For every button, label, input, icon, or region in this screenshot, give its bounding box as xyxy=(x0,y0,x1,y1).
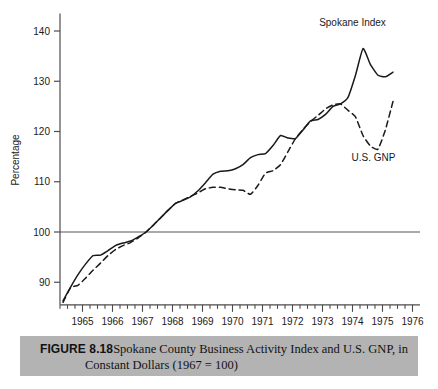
y-axis: 90100110120130140 xyxy=(33,13,60,304)
x-tick-label: 1972 xyxy=(281,316,304,327)
x-axis: 1965196619671968196919701971197219731974… xyxy=(60,305,424,327)
x-tick-label: 1976 xyxy=(401,316,424,327)
caption-line-2: Constant Dollars (1967 = 100) xyxy=(20,357,418,373)
series-line-1 xyxy=(63,49,393,301)
y-tick-label: 140 xyxy=(33,26,50,37)
y-axis-title: Percentage xyxy=(10,134,21,186)
x-tick-label: 1968 xyxy=(161,316,184,327)
figure-caption-bar: FIGURE 8.18Spokane County Business Activ… xyxy=(20,336,418,376)
x-tick-label: 1973 xyxy=(311,316,334,327)
y-tick-label: 90 xyxy=(39,277,51,288)
x-tick-label: 1969 xyxy=(191,316,214,327)
caption-line-1: FIGURE 8.18Spokane County Business Activ… xyxy=(20,341,418,357)
y-tick-label: 130 xyxy=(33,76,50,87)
x-tick-label: 1975 xyxy=(371,316,394,327)
x-tick-label: 1971 xyxy=(251,316,274,327)
line-chart-svg: 90100110120130140 1965196619671968196919… xyxy=(0,0,438,330)
series-label-1: Spokane Index xyxy=(319,17,386,28)
y-tick-label: 110 xyxy=(34,176,50,187)
y-tick-label: 100 xyxy=(33,227,50,238)
caption-text-2: Constant Dollars (1967 = 100) xyxy=(85,358,238,372)
figure-container: 90100110120130140 1965196619671968196919… xyxy=(0,0,438,389)
series-line-2 xyxy=(63,101,393,302)
x-tick-label: 1970 xyxy=(221,316,244,327)
x-tick-label: 1967 xyxy=(131,316,154,327)
x-tick-label: 1965 xyxy=(71,316,94,327)
series-annotations: Spokane IndexU.S. GNP xyxy=(319,17,396,163)
series-label-2: U.S. GNP xyxy=(352,152,396,163)
figure-number-label: FIGURE 8.18 xyxy=(40,342,113,356)
caption-text-1: Spokane County Business Activity Index a… xyxy=(113,342,408,356)
x-tick-label: 1974 xyxy=(341,316,364,327)
chart-plot-area: 90100110120130140 1965196619671968196919… xyxy=(0,0,438,330)
x-tick-label: 1966 xyxy=(101,316,124,327)
y-tick-label: 120 xyxy=(33,126,50,137)
data-series-group xyxy=(63,49,393,303)
